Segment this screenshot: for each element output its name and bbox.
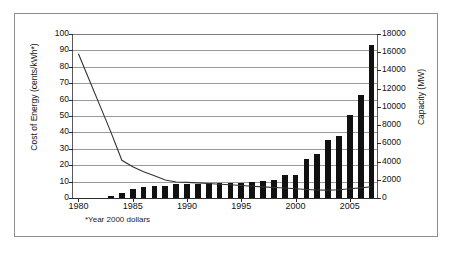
bar bbox=[195, 184, 201, 198]
x-axis-tick-mark bbox=[296, 198, 297, 202]
bar bbox=[282, 175, 288, 198]
y-axis-left-tick-mark bbox=[69, 50, 73, 51]
bar bbox=[325, 140, 331, 198]
bar bbox=[314, 154, 320, 198]
y-axis-left-tick-mark bbox=[69, 182, 73, 183]
bar bbox=[293, 175, 299, 198]
x-axis-tick-label: 1990 bbox=[177, 202, 197, 211]
y-axis-right-tick-mark bbox=[377, 198, 381, 199]
y-axis-right-tick-label: 10000 bbox=[377, 102, 406, 111]
y-axis-left-tick-mark bbox=[69, 34, 73, 35]
y-axis-left-tick-mark bbox=[69, 198, 73, 199]
bar bbox=[119, 193, 125, 198]
y-axis-left-tick-mark bbox=[69, 67, 73, 68]
bar bbox=[336, 136, 342, 198]
x-axis-tick-label: 1995 bbox=[231, 202, 251, 211]
y-axis-right-tick-mark bbox=[377, 125, 381, 126]
bar bbox=[260, 181, 266, 198]
gridline bbox=[73, 149, 377, 150]
bar bbox=[271, 180, 277, 198]
bar bbox=[130, 189, 136, 198]
plot-area: 0102030405060708090100 02000400060008000… bbox=[72, 34, 378, 199]
x-axis-tick-label: 1985 bbox=[123, 202, 143, 211]
gridline bbox=[73, 34, 377, 35]
gridline bbox=[73, 83, 377, 84]
y-axis-right-tick-mark bbox=[377, 70, 381, 71]
x-axis-tick-label: 2000 bbox=[286, 202, 306, 211]
y-axis-left-tick-mark bbox=[69, 83, 73, 84]
gridline bbox=[73, 100, 377, 101]
bar bbox=[347, 115, 353, 198]
y-axis-left-tick-mark bbox=[69, 165, 73, 166]
y-axis-right-tick-label: 16000 bbox=[377, 47, 406, 56]
bar bbox=[249, 182, 255, 198]
bar bbox=[184, 184, 190, 198]
y-axis-left-tick-mark bbox=[69, 116, 73, 117]
gridline bbox=[73, 67, 377, 68]
bar bbox=[228, 183, 234, 198]
y-axis-right-tick-mark bbox=[377, 89, 381, 90]
bar bbox=[152, 186, 158, 198]
gridline bbox=[73, 182, 377, 183]
bar bbox=[217, 183, 223, 198]
x-axis-tick-mark bbox=[241, 198, 242, 202]
bar bbox=[162, 186, 168, 198]
y-axis-right-tick-mark bbox=[377, 34, 381, 35]
x-axis-tick-mark bbox=[133, 198, 134, 202]
y-axis-right-tick-label: 18000 bbox=[377, 29, 406, 38]
bar bbox=[369, 45, 375, 198]
bar bbox=[108, 196, 114, 198]
gridline bbox=[73, 116, 377, 117]
y-axis-right-tick-label: 12000 bbox=[377, 84, 406, 93]
bar bbox=[206, 183, 212, 198]
x-axis-tick-mark bbox=[78, 198, 79, 202]
x-axis-tick-label: 1980 bbox=[68, 202, 88, 211]
bar bbox=[141, 187, 147, 198]
chart-figure: Cost of Energy (cents/kWh*) Capacity (MW… bbox=[14, 13, 438, 237]
y-axis-left-tick-mark bbox=[69, 100, 73, 101]
gridline bbox=[73, 50, 377, 51]
gridline bbox=[73, 165, 377, 166]
y-axis-left-title: Cost of Energy (cents/kWh*) bbox=[29, 29, 39, 165]
x-axis-tick-mark bbox=[187, 198, 188, 202]
bar bbox=[238, 183, 244, 198]
y-axis-left-tick-mark bbox=[69, 149, 73, 150]
bar bbox=[304, 159, 310, 198]
y-axis-right-tick-label: 14000 bbox=[377, 65, 406, 74]
y-axis-right-tick-mark bbox=[377, 162, 381, 163]
y-axis-right-tick-mark bbox=[377, 107, 381, 108]
x-axis-tick-mark bbox=[350, 198, 351, 202]
bar bbox=[173, 184, 179, 198]
x-axis-tick-label: 2005 bbox=[340, 202, 360, 211]
bar bbox=[358, 95, 364, 198]
y-axis-right-tick-mark bbox=[377, 143, 381, 144]
y-axis-right-tick-mark bbox=[377, 180, 381, 181]
y-axis-right-title: Capacity (MW) bbox=[416, 29, 426, 165]
chart-footnote: *Year 2000 dollars bbox=[85, 215, 150, 224]
y-axis-left-tick-mark bbox=[69, 132, 73, 133]
y-axis-right-tick-mark bbox=[377, 52, 381, 53]
gridline bbox=[73, 132, 377, 133]
